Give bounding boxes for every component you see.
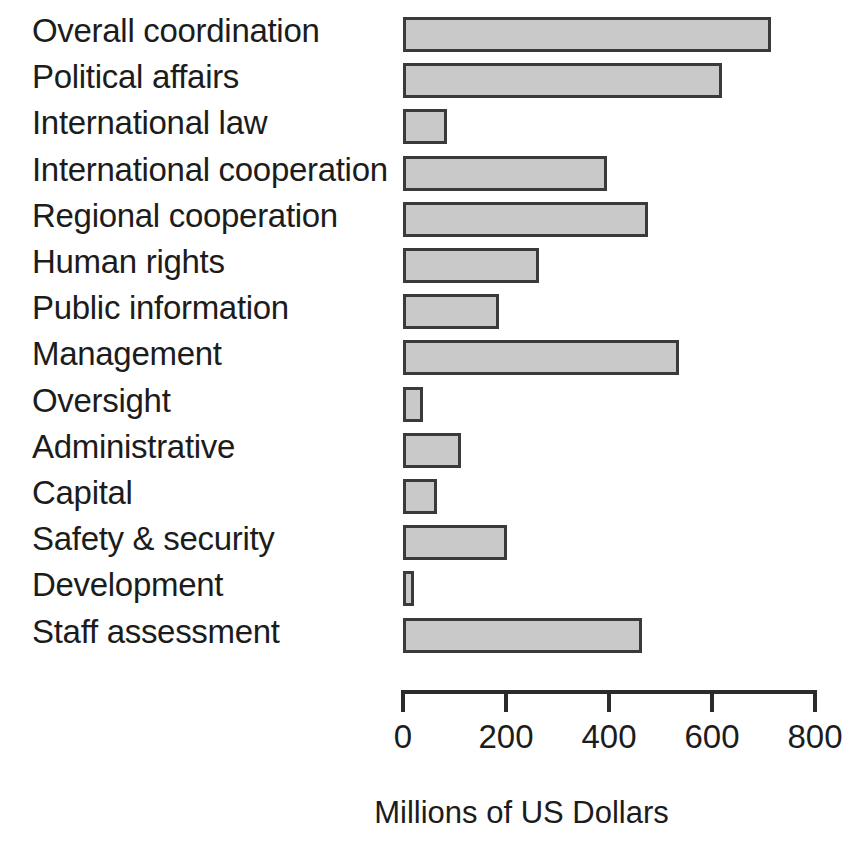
- bar: [403, 340, 679, 375]
- category-label: Safety & security: [32, 519, 275, 565]
- category-label: Capital: [32, 473, 133, 519]
- axis-baseline: [403, 690, 815, 694]
- category-label: Human rights: [32, 242, 225, 288]
- chart-plot-area: Overall coordinationPolitical affairsInt…: [0, 0, 863, 680]
- chart-row: Safety & security: [0, 519, 863, 565]
- category-label: International law: [32, 103, 267, 149]
- bar: [403, 387, 423, 422]
- category-label: Regional cooperation: [32, 196, 338, 242]
- bar: [403, 571, 414, 606]
- bar: [403, 248, 539, 283]
- axis-tick-label: 600: [684, 718, 739, 756]
- chart-row: Development: [0, 565, 863, 611]
- bar: [403, 109, 447, 144]
- category-label: Development: [32, 565, 223, 611]
- chart-row: Public information: [0, 288, 863, 334]
- chart-row: Oversight: [0, 381, 863, 427]
- chart-row: Political affairs: [0, 57, 863, 103]
- category-label: Management: [32, 334, 222, 380]
- chart-row: Administrative: [0, 427, 863, 473]
- bar: [403, 17, 771, 52]
- axis-tick: [607, 690, 611, 712]
- chart-row: Human rights: [0, 242, 863, 288]
- axis-tick-label: 400: [581, 718, 636, 756]
- bar: [403, 202, 648, 237]
- axis-tick: [401, 690, 405, 712]
- bar: [403, 618, 642, 653]
- bar: [403, 525, 507, 560]
- chart-row: Management: [0, 334, 863, 380]
- x-axis-title: Millions of US Dollars: [0, 795, 863, 831]
- category-label: Overall coordination: [32, 11, 320, 57]
- bar: [403, 433, 461, 468]
- category-label: Political affairs: [32, 57, 239, 103]
- category-label: Oversight: [32, 381, 171, 427]
- category-label: Public information: [32, 288, 289, 334]
- axis-tick-label: 200: [478, 718, 533, 756]
- bar: [403, 479, 437, 514]
- axis-tick-label: 800: [787, 718, 842, 756]
- axis-tick: [504, 690, 508, 712]
- bar-chart: Overall coordinationPolitical affairsInt…: [0, 0, 863, 851]
- bar: [403, 63, 722, 98]
- chart-row: International law: [0, 103, 863, 149]
- category-label: International cooperation: [32, 150, 388, 196]
- chart-row: Regional cooperation: [0, 196, 863, 242]
- bar: [403, 294, 499, 329]
- category-label: Administrative: [32, 427, 235, 473]
- axis-tick: [710, 690, 714, 712]
- axis-tick: [813, 690, 817, 712]
- bar: [403, 156, 607, 191]
- chart-row: International cooperation: [0, 150, 863, 196]
- chart-row: Overall coordination: [0, 11, 863, 57]
- chart-row: Capital: [0, 473, 863, 519]
- category-label: Staff assessment: [32, 612, 280, 658]
- chart-row: Staff assessment: [0, 612, 863, 658]
- axis-tick-label: 0: [394, 718, 412, 756]
